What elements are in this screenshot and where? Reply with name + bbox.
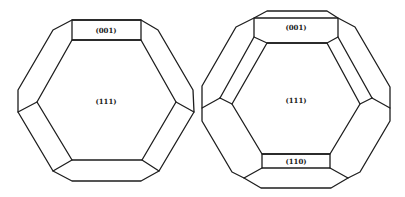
crystal-left: (001) (111) bbox=[18, 20, 194, 181]
crystal-left-edge bbox=[53, 160, 72, 171]
crystal-left-edge bbox=[18, 102, 37, 112]
crystal-right-label-111: (111) bbox=[285, 96, 306, 105]
crystal-right-label-110: (110) bbox=[285, 157, 306, 166]
crystal-habit-figure: (001) (111) (001) (111) (110) bbox=[0, 0, 405, 197]
crystal-right-edge bbox=[360, 98, 372, 104]
crystal-right-edge bbox=[202, 98, 220, 108]
crystal-left-label-001: (001) bbox=[95, 26, 116, 35]
crystal-right: (001) (111) (110) bbox=[202, 11, 390, 188]
crystal-right-edge bbox=[330, 168, 348, 178]
crystal-right-label-001: (001) bbox=[285, 23, 306, 32]
crystal-left-edge bbox=[176, 102, 194, 112]
crystal-right-edge bbox=[220, 98, 232, 104]
crystal-left-label-111: (111) bbox=[95, 97, 116, 106]
diagram-canvas: (001) (111) (001) (111) (110) bbox=[0, 0, 405, 197]
crystal-left-edge bbox=[142, 160, 159, 171]
crystal-right-edge bbox=[372, 98, 390, 108]
crystal-right-edge bbox=[244, 168, 262, 178]
